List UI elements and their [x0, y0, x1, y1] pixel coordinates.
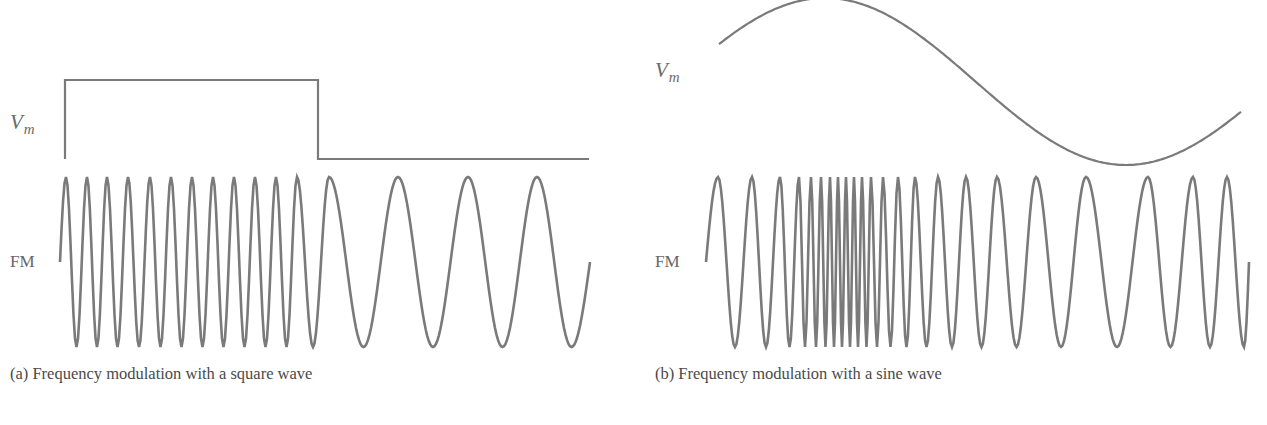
fm-label-b: FM: [655, 252, 680, 272]
fm-carrier-square: [60, 177, 590, 347]
square-wave-modulator: [65, 80, 589, 159]
sine-wave-modulator: [719, 0, 1241, 165]
vm-label-a: Vm: [10, 110, 35, 138]
fm-label-a: FM: [10, 252, 35, 272]
caption-a: (a) Frequency modulation with a square w…: [10, 364, 312, 384]
caption-b: (b) Frequency modulation with a sine wav…: [655, 364, 942, 384]
vm-label-b: Vm: [655, 58, 680, 86]
fm-carrier-sine: [706, 177, 1249, 347]
fm-diagram-canvas: [0, 0, 1267, 425]
